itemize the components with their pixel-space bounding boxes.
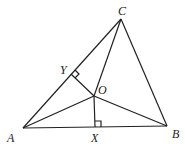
label-y: Y <box>60 64 67 76</box>
label-c: C <box>118 5 126 17</box>
segment-oa <box>23 96 94 128</box>
right-angle-y <box>75 70 79 78</box>
label-x: X <box>91 132 98 144</box>
label-a: A <box>7 132 14 144</box>
segment-oy <box>71 74 94 96</box>
diagram: A B C O X Y <box>0 0 185 154</box>
segment-ox <box>94 96 95 127</box>
side-ca <box>23 19 121 128</box>
label-o: O <box>98 84 107 96</box>
label-b: B <box>172 128 179 140</box>
right-angle-x <box>95 121 101 127</box>
